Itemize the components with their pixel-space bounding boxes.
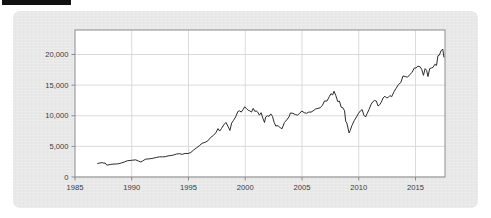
y-axis-tick-label: 10,000: [45, 111, 68, 120]
x-axis-tick-label: 2015: [407, 183, 424, 192]
x-axis-tick-label: 1990: [123, 183, 140, 192]
y-axis-tick-label: 20,000: [45, 50, 68, 59]
x-axis-tick-label: 2000: [237, 183, 254, 192]
y-axis-tick-label: 15,000: [45, 81, 68, 90]
line-chart: 05,00010,00015,00020,000 198519901995200…: [0, 0, 491, 218]
x-axis-ticks: [75, 177, 415, 181]
x-axis-tick-labels: 1985199019952000200520102015: [67, 183, 424, 192]
y-axis-ticks: [72, 55, 76, 178]
y-axis-tick-label: 0: [64, 173, 68, 182]
x-axis-tick-label: 1985: [67, 183, 84, 192]
x-axis-tick-label: 2005: [294, 183, 311, 192]
y-axis-tick-labels: 05,00010,00015,00020,000: [45, 50, 68, 182]
x-axis-tick-label: 1995: [180, 183, 197, 192]
x-axis-tick-label: 2010: [350, 183, 367, 192]
y-axis-tick-label: 5,000: [49, 142, 68, 151]
plot-background: [75, 30, 445, 177]
